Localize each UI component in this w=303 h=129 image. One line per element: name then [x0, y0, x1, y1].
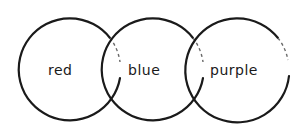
label-red: red	[48, 62, 72, 78]
label-blue: blue	[128, 62, 160, 78]
label-purple: purple	[210, 62, 258, 78]
three-circle-diagram: red blue purple	[0, 0, 303, 129]
